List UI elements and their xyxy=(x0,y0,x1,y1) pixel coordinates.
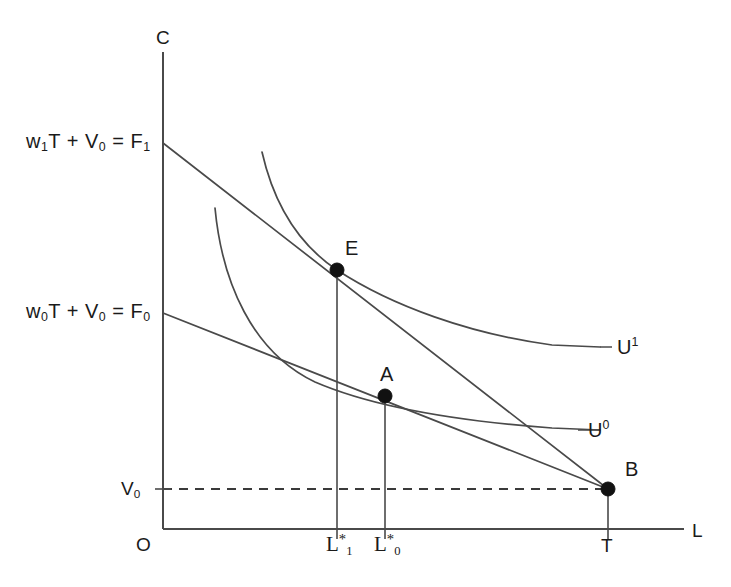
point-b-label: B xyxy=(625,459,638,479)
budget-line-f0-label: w0T + V0 = F0 xyxy=(26,301,151,321)
x-tick-label-l0: L*0 xyxy=(374,534,400,555)
l1-sub: 1 xyxy=(346,544,352,558)
x-axis-label: L xyxy=(692,521,703,540)
indifference-curve-u1 xyxy=(262,152,600,347)
point-a-label: A xyxy=(380,364,393,384)
u0-sup: 0 xyxy=(602,418,609,432)
f0-f-sub: 0 xyxy=(143,310,150,324)
f1-w-sub: 1 xyxy=(41,140,48,154)
diagram-canvas xyxy=(0,0,731,587)
l0-sub: 0 xyxy=(394,544,400,558)
u1-sup: 1 xyxy=(631,335,638,349)
f1-mid: T + V xyxy=(48,130,99,152)
x-tick-label-l1: L*1 xyxy=(326,534,352,555)
point-e-dot xyxy=(330,263,344,277)
figure-root: C L O w1T + V0 = F1 w0T + V0 = F0 V0 E A… xyxy=(0,0,731,587)
u1-letter: U xyxy=(617,336,631,358)
x-tick-label-t: T xyxy=(601,536,613,555)
f0-w-sub: 0 xyxy=(41,310,48,324)
l1-letter: L xyxy=(326,532,339,556)
f0-mid: T + V xyxy=(48,300,99,322)
v0-sub: 0 xyxy=(134,487,141,500)
u0-letter: U xyxy=(588,419,602,441)
indifference-curve-u0 xyxy=(215,208,600,430)
y-axis-label: C xyxy=(156,28,170,47)
f1-end: = F xyxy=(106,130,143,152)
curve-label-u1: U1 xyxy=(617,337,638,357)
point-b-dot xyxy=(601,482,615,496)
point-e-label: E xyxy=(345,238,358,258)
y-tick-label-v0: V0 xyxy=(121,479,140,498)
f0-end: = F xyxy=(106,300,143,322)
f1-w: w xyxy=(26,130,41,152)
f1-f-sub: 1 xyxy=(143,140,150,154)
f0-w: w xyxy=(26,300,41,322)
l0-letter: L xyxy=(374,532,387,556)
point-a-dot xyxy=(378,389,392,403)
origin-label: O xyxy=(136,535,151,554)
f1-v-sub: 0 xyxy=(99,140,106,154)
v0-letter: V xyxy=(121,478,134,499)
curve-label-u0: U0 xyxy=(588,420,609,440)
budget-line-f1-label: w1T + V0 = F1 xyxy=(26,131,151,151)
f0-v-sub: 0 xyxy=(99,310,106,324)
